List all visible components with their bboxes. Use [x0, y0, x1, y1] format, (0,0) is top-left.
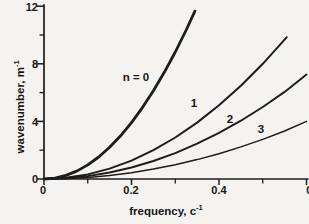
- x-tick-label-0p2: 0.2: [113, 184, 149, 196]
- x-tick-label-0p6: 0.6: [296, 184, 309, 196]
- dispersion-chart: 12 8 4 0 0 0.2 0.4 0.6 n = 0 1 2 3 frequ…: [0, 0, 309, 224]
- y-tick-label-12: 12: [4, 1, 38, 13]
- curve-n2: [44, 75, 307, 179]
- y-axis-label: wavenumber, m-1: [12, 52, 26, 162]
- curve-label-n2: 2: [227, 113, 233, 125]
- x-tick-label-0p4: 0.4: [201, 184, 237, 196]
- curve-n3: [44, 121, 307, 179]
- curve-n1: [44, 37, 287, 179]
- x-axis-label: frequency, c-1: [66, 203, 266, 217]
- x-tick-label-0: 0: [25, 184, 61, 196]
- curve-label-n3: 3: [258, 123, 264, 135]
- y-axis-label-sup: -1: [12, 60, 21, 67]
- y-axis-label-text: wavenumber, m: [14, 67, 26, 153]
- x-axis-label-sup: -1: [196, 203, 203, 212]
- x-axis-label-text: frequency, c: [129, 205, 196, 217]
- curve-label-n1: 1: [191, 97, 197, 109]
- curve-label-n0: n = 0: [123, 71, 150, 83]
